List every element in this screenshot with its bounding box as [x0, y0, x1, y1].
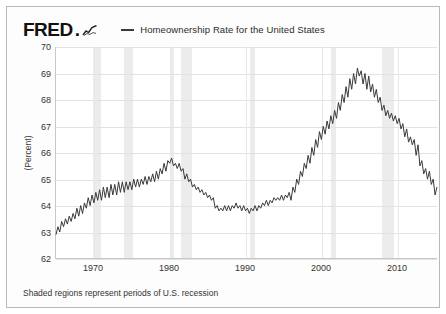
- x-axis-tick: 2000: [311, 263, 331, 273]
- y-axis-tick-labels: 706968676665646362: [7, 47, 51, 259]
- y-axis-tick: 62: [11, 254, 51, 264]
- fred-chart-icon: [82, 25, 98, 38]
- fred-logo-text: FRED: [23, 21, 73, 38]
- y-axis-tick: 68: [11, 95, 51, 105]
- y-axis-tick: 67: [11, 122, 51, 132]
- fred-chart-screenshot: FRED . Homeownership Rate for the United…: [0, 0, 446, 314]
- legend-series-label: Homeownership Rate for the United States: [140, 24, 325, 35]
- x-axis-tick: 2010: [387, 263, 407, 273]
- plot-area: [55, 47, 437, 259]
- fred-logo-dot: .: [75, 21, 80, 38]
- series-polyline: [56, 68, 437, 235]
- y-axis-tick: 63: [11, 228, 51, 238]
- y-axis-tick: 64: [11, 201, 51, 211]
- fred-logo[interactable]: FRED .: [23, 21, 98, 38]
- x-axis-tick: 1970: [83, 263, 103, 273]
- y-axis-tick: 66: [11, 148, 51, 158]
- y-axis-tick: 65: [11, 175, 51, 185]
- y-axis-tick: 69: [11, 69, 51, 79]
- x-axis-tick: 1980: [159, 263, 179, 273]
- recession-note: Shaded regions represent periods of U.S.…: [23, 288, 218, 298]
- x-axis-tick-labels: 19701980199020002010: [55, 259, 437, 277]
- x-axis-tick: 1990: [235, 263, 255, 273]
- plot-canvas: [55, 47, 437, 259]
- chart-card: FRED . Homeownership Rate for the United…: [6, 6, 440, 308]
- legend-line-swatch: [121, 29, 134, 31]
- y-axis-tick: 70: [11, 42, 51, 52]
- series-line-homeownership-rate: [56, 47, 437, 258]
